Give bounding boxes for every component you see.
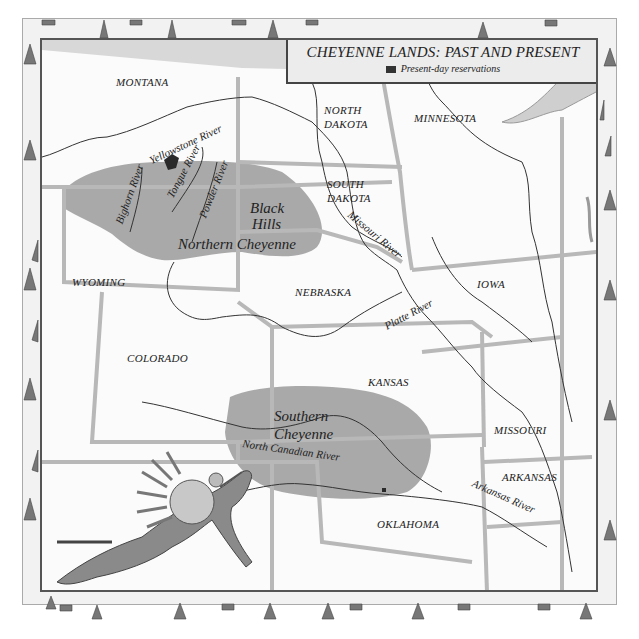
label-south-dakota-2: DAKOTA [327,192,371,204]
label-oklahoma: OKLAHOMA [377,518,439,530]
label-black-hills-1: Black [250,200,284,217]
label-south-dakota-1: SOUTH [327,178,364,190]
label-southern-cheyenne-2: Cheyenne [274,426,333,443]
label-nebraska: NEBRASKA [295,286,351,298]
label-missouri: MISSOURI [494,424,547,436]
legend-key-label: Present-day reservations [401,63,501,74]
map-panel: CHEYENNE LANDS: PAST AND PRESENT Present… [40,38,598,592]
label-minnesota: MINNESOTA [414,112,476,124]
label-northern-cheyenne: Northern Cheyenne [178,236,296,253]
legend-key: Present-day reservations [288,63,598,74]
label-colorado: COLORADO [127,352,188,364]
label-montana: MONTANA [116,76,169,88]
label-kansas: KANSAS [368,376,409,388]
label-arkansas: ARKANSAS [502,471,557,483]
label-black-hills-2: Hills [252,216,281,233]
cheyenne-rider-illustration [57,452,252,584]
label-iowa: IOWA [477,278,505,290]
label-north-dakota-2: DAKOTA [324,118,368,130]
map-title: CHEYENNE LANDS: PAST AND PRESENT [288,44,598,61]
reservation-southern-cheyenne [382,488,386,492]
reservation-swatch-icon [386,66,396,73]
label-north-dakota-1: NORTH [324,104,362,116]
map-canvas [42,40,598,592]
map-legend: CHEYENNE LANDS: PAST AND PRESENT Present… [286,38,598,84]
label-wyoming: WYOMING [72,276,125,288]
label-southern-cheyenne-1: Southern [274,408,328,425]
lake-michigan [587,197,592,242]
